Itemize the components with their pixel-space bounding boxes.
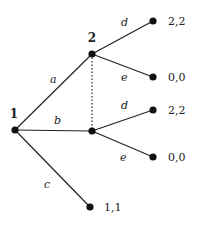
action-label-d: d <box>121 99 128 112</box>
payoff-label: 0,0 <box>168 151 186 164</box>
action-label-c: c <box>44 178 50 191</box>
player-label-2: 2 <box>88 31 96 45</box>
node-t5 <box>86 203 93 210</box>
action-label-e: e <box>120 151 127 164</box>
game-tree: abcdede122,20,02,20,01,1 <box>0 0 198 232</box>
action-label-a: a <box>50 73 57 86</box>
edge-d <box>92 110 153 131</box>
node-n2b <box>88 127 95 134</box>
action-label-e: e <box>121 71 128 84</box>
node-t3 <box>149 106 156 113</box>
labels-group: abcdede122,20,02,20,01,1 <box>10 15 186 214</box>
action-label-d: d <box>121 16 128 29</box>
node-n1 <box>11 126 18 133</box>
edge-c <box>15 130 90 207</box>
nodes-group <box>11 17 156 210</box>
action-label-b: b <box>54 114 61 127</box>
node-n2 <box>88 50 95 57</box>
payoff-label: 0,0 <box>168 71 186 84</box>
edge-b <box>15 130 92 131</box>
player-label-1: 1 <box>10 107 18 121</box>
payoff-label: 2,2 <box>168 15 186 28</box>
payoff-label: 1,1 <box>104 201 122 214</box>
node-t2 <box>149 73 156 80</box>
node-t4 <box>149 153 156 160</box>
edges-group <box>15 21 153 207</box>
payoff-label: 2,2 <box>168 104 186 117</box>
node-t1 <box>149 17 156 24</box>
